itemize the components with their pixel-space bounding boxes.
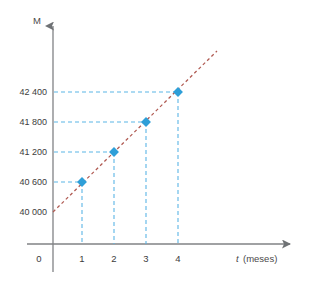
x-tick-label-4: 4 [175, 253, 180, 264]
y-tick-label-41200: 41 200 [19, 147, 47, 157]
y-axis-label: M [33, 15, 41, 26]
linear-function-chart: 40 000 40 600 41 200 41 800 42 400 0 1 2… [0, 0, 311, 287]
y-tick-label-42400: 42 400 [19, 87, 47, 97]
data-point-3 [141, 117, 151, 127]
y-tick-labels: 40 000 40 600 41 200 41 800 42 400 [19, 87, 47, 217]
chart-canvas: 40 000 40 600 41 200 41 800 42 400 0 1 2… [0, 0, 311, 287]
horizontal-guide-lines [54, 92, 178, 182]
y-tick-label-41800: 41 800 [19, 117, 47, 127]
x-tick-label-0: 0 [36, 253, 41, 264]
x-tick-label-1: 1 [79, 253, 84, 264]
data-point-4 [173, 87, 183, 97]
vertical-guide-lines [82, 92, 178, 244]
x-tick-label-3: 3 [143, 253, 148, 264]
x-tick-labels: 0 1 2 3 4 [36, 253, 180, 264]
x-tick-label-2: 2 [111, 253, 116, 264]
trend-line [53, 51, 217, 212]
y-tick-label-40000: 40 000 [19, 207, 47, 217]
axis-group [27, 26, 290, 272]
x-axis-label-unit: (meses) [243, 253, 277, 264]
data-point-1 [77, 177, 87, 187]
y-tick-label-40600: 40 600 [19, 177, 47, 187]
x-axis-label-symbol: t [236, 253, 239, 264]
